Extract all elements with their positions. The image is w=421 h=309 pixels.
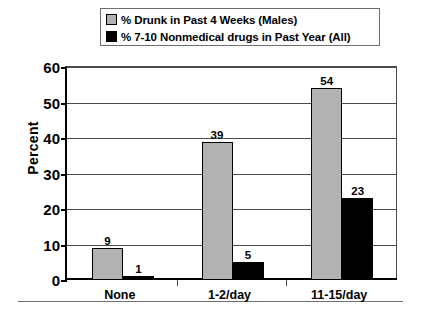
y-axis-title: Percent — [25, 108, 41, 188]
bar-value-label: 39 — [211, 129, 224, 141]
y-axis-tick-label: 0 — [52, 272, 60, 289]
bar-0-2: 54 — [311, 88, 342, 280]
y-axis-tick-label: 30 — [43, 165, 60, 182]
bar-value-label: 1 — [135, 263, 141, 275]
bar-1-1: 5 — [233, 262, 264, 280]
legend-entry-nonmedical-drugs: % 7-10 Nonmedical drugs in Past Year (Al… — [106, 28, 375, 45]
x-axis-tick-mark — [286, 280, 287, 286]
legend-swatch-series-1 — [106, 31, 117, 42]
gridline — [67, 103, 396, 104]
bar-value-label: 9 — [104, 235, 110, 247]
y-axis-tick-label: 60 — [43, 59, 60, 76]
y-axis-tick-mark — [61, 209, 67, 211]
bar-value-label: 23 — [351, 185, 364, 197]
gridline — [67, 138, 396, 139]
y-axis-tick-label: 40 — [43, 130, 60, 147]
bar-value-label: 5 — [245, 249, 251, 261]
x-axis-category-label: 11-15/day — [311, 288, 367, 302]
legend-label-series-0: % Drunk in Past 4 Weeks (Males) — [121, 14, 297, 26]
legend-swatch-series-0 — [106, 14, 117, 25]
plot-area: 0102030405060913955423 — [65, 66, 397, 280]
legend-label-series-1: % 7-10 Nonmedical drugs in Past Year (Al… — [121, 31, 351, 43]
chart-legend: % Drunk in Past 4 Weeks (Males) % 7-10 N… — [100, 8, 380, 46]
y-axis-tick-mark — [61, 280, 67, 282]
y-axis-tick-label: 50 — [43, 94, 60, 111]
y-axis-tick-label: 20 — [43, 201, 60, 218]
bar-1-0: 1 — [123, 276, 154, 280]
bar-0-0: 9 — [92, 248, 123, 280]
gridline — [67, 67, 396, 68]
x-axis-category-label: 1-2/day — [208, 288, 251, 302]
y-axis-tick-mark — [61, 138, 67, 140]
legend-entry-drunk: % Drunk in Past 4 Weeks (Males) — [106, 11, 375, 28]
y-axis-tick-mark — [61, 174, 67, 176]
x-axis-tick-mark — [177, 280, 178, 286]
bar-value-label: 54 — [320, 75, 333, 87]
x-axis-category-label: None — [104, 288, 135, 302]
bar-1-2: 23 — [342, 198, 373, 280]
y-axis-tick-mark — [61, 245, 67, 247]
bar-chart: % Drunk in Past 4 Weeks (Males) % 7-10 N… — [0, 0, 421, 309]
y-axis-tick-mark — [61, 103, 67, 105]
y-axis-tick-mark — [61, 67, 67, 69]
bar-0-1: 39 — [202, 142, 233, 280]
y-axis-tick-label: 10 — [43, 236, 60, 253]
